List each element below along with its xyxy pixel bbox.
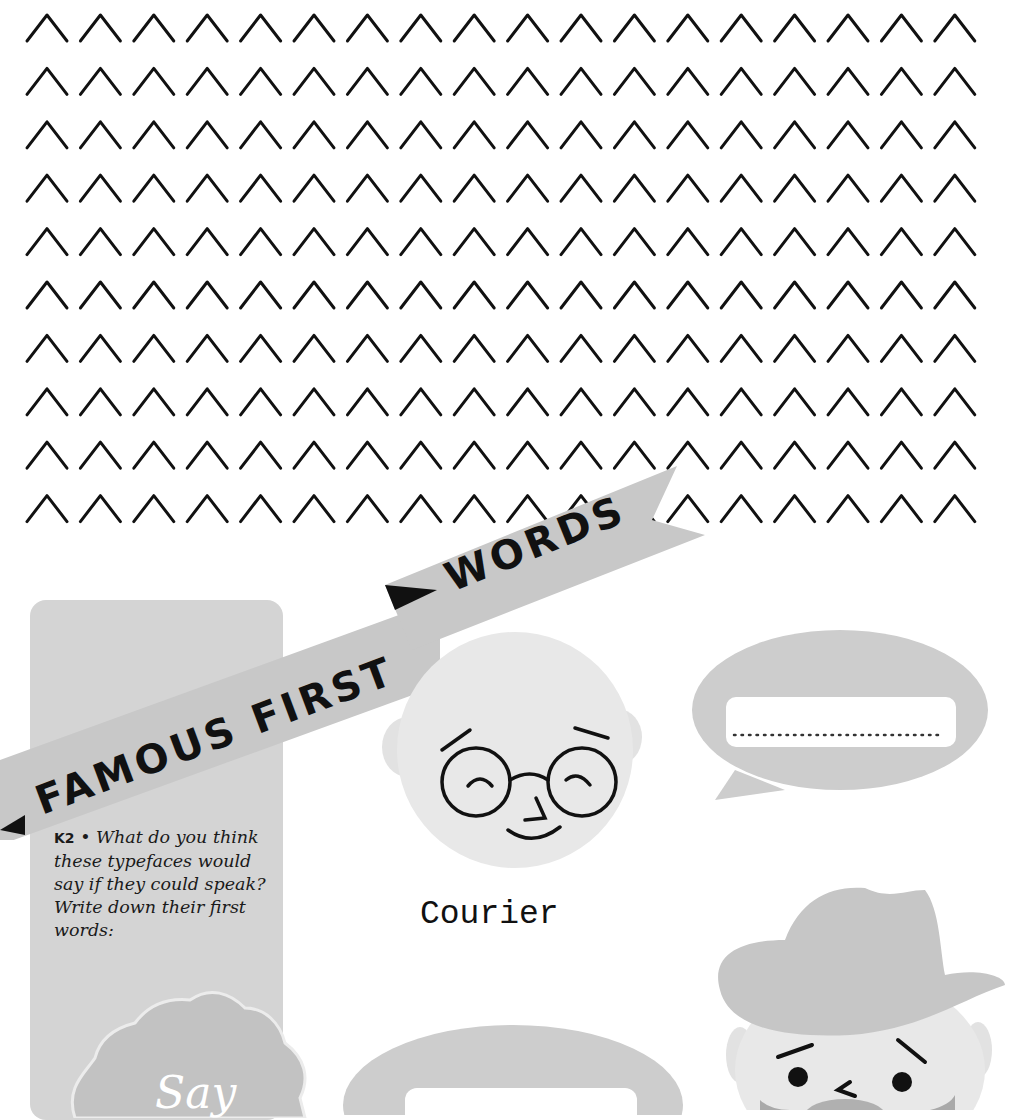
chevron-up-icon [508,175,548,201]
chevron-up-icon [241,335,281,361]
speech-bubble-cowboy [320,985,700,1115]
chevron-up-icon [935,68,975,94]
chevron-up-icon [561,282,601,308]
chevron-up-icon [187,122,227,148]
chevron-up-icon [935,496,975,522]
chevron-up-icon [828,229,868,255]
chevron-up-icon [508,282,548,308]
chevron-up-icon [294,389,334,415]
chevron-up-icon [775,15,815,41]
answer-field[interactable] [405,1088,637,1115]
chevron-up-icon [668,15,708,41]
chevron-up-icon [27,389,67,415]
chevron-up-icon [614,389,654,415]
chevron-up-icon [454,175,494,201]
answer-field[interactable] [726,697,956,747]
chevron-up-icon [241,175,281,201]
chevron-up-icon [614,335,654,361]
chevron-up-icon [721,389,761,415]
chevron-up-icon [775,335,815,361]
chevron-up-icon [508,229,548,255]
chevron-up-icon [401,282,441,308]
chevron-up-icon [401,15,441,41]
chevron-up-icon [614,122,654,148]
chevron-up-icon [721,175,761,201]
chevron-up-icon [828,15,868,41]
chevron-up-icon [561,389,601,415]
chevron-up-icon [27,122,67,148]
chevron-up-icon [294,282,334,308]
chevron-up-icon [935,15,975,41]
chevron-up-icon [881,68,921,94]
chevron-up-icon [561,68,601,94]
chevron-up-icon [187,282,227,308]
chevron-up-icon [668,175,708,201]
chevron-up-icon [508,122,548,148]
chevron-up-icon [454,389,494,415]
chevron-up-icon [241,389,281,415]
chevron-up-icon [935,442,975,468]
chevron-up-icon [294,15,334,41]
chevron-up-icon [454,335,494,361]
chevron-up-icon [828,68,868,94]
chevron-up-icon [935,175,975,201]
hat [718,888,1005,1036]
chevron-up-icon [134,229,174,255]
chevron-up-icon [935,389,975,415]
chevron-up-icon [508,335,548,361]
chevron-up-icon [561,335,601,361]
chevron-up-icon [881,389,921,415]
chevron-up-icon [187,175,227,201]
chevron-up-icon [828,122,868,148]
chevron-up-icon [614,282,654,308]
chevron-up-icon [561,122,601,148]
chevron-up-icon [828,496,868,522]
chevron-up-icon [828,175,868,201]
chevron-up-icon [508,15,548,41]
chevron-up-icon [775,442,815,468]
chevron-up-icon [347,389,387,415]
chevron-up-icon [80,282,120,308]
chevron-up-icon [775,282,815,308]
chevron-up-icon [134,122,174,148]
chevron-up-icon [828,389,868,415]
chevron-up-icon [454,282,494,308]
chevron-up-icon [241,122,281,148]
chevron-up-icon [454,15,494,41]
chevron-up-icon [187,68,227,94]
chevron-up-icon [668,229,708,255]
chevron-up-icon [454,68,494,94]
chevron-up-icon [828,442,868,468]
chevron-up-icon [27,282,67,308]
chevron-up-icon [668,282,708,308]
chevron-up-icon [294,68,334,94]
chevron-up-icon [134,68,174,94]
chevron-up-icon [347,335,387,361]
chevron-up-icon [828,335,868,361]
chevron-up-icon [347,68,387,94]
chevron-up-icon [668,68,708,94]
chevron-up-icon [134,389,174,415]
chevron-up-icon [775,229,815,255]
eye-left [788,1067,808,1087]
chevron-up-icon [561,229,601,255]
speech-bubble-courier [680,610,1009,810]
eye-right [892,1072,912,1092]
chevron-up-icon [935,229,975,255]
chevron-up-icon [721,229,761,255]
chevron-up-icon [27,335,67,361]
chevron-up-icon [775,496,815,522]
chevron-up-icon [881,282,921,308]
chevron-up-icon [347,175,387,201]
chevron-up-icon [347,122,387,148]
chevron-up-icon [775,175,815,201]
chevron-up-icon [721,15,761,41]
chevron-up-icon [721,335,761,361]
chevron-up-icon [935,282,975,308]
chevron-up-icon [401,335,441,361]
chevron-up-icon [80,335,120,361]
courier-character [370,630,650,880]
chevron-up-icon [881,229,921,255]
chevron-up-icon [241,68,281,94]
chevron-up-icon [721,282,761,308]
